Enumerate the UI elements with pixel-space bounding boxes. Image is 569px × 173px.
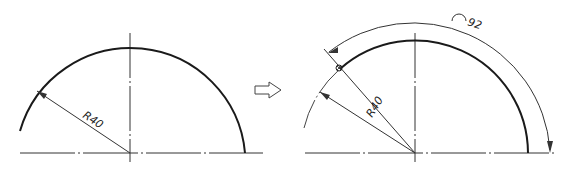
radius-arrowhead-right: [320, 92, 330, 100]
transition-arrow-icon: [255, 82, 281, 98]
arc-length-dimension-arc: [329, 23, 550, 150]
construction-arc: [304, 69, 340, 128]
extension-line: [324, 49, 415, 153]
radius-dimension-line: [37, 91, 130, 153]
technical-drawing: R40 R40 92: [0, 0, 569, 173]
arc-arrowhead-end: [547, 141, 553, 153]
thick-semicircle-arc: [340, 41, 528, 153]
arc-length-symbol-icon: [452, 14, 466, 21]
right-figure: [304, 14, 555, 162]
radius-dimension-line-right: [320, 92, 415, 153]
left-figure: [20, 33, 263, 162]
arc-length-label: 92: [466, 15, 483, 32]
semicircle-arc: [20, 48, 245, 153]
